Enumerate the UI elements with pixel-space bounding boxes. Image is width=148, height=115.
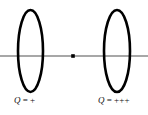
left-charge-symbol: Q — [14, 95, 21, 105]
right-ring-charge-label: Q = +++ — [98, 96, 130, 105]
left-charge-value: + — [30, 95, 35, 105]
left-ring-charge-label: Q = + — [14, 96, 35, 105]
right-charge-value: +++ — [114, 95, 130, 105]
right-charge-symbol: Q — [98, 95, 105, 105]
axis-point-marker — [71, 54, 75, 58]
figure-canvas: Q = + Q = +++ — [0, 0, 148, 115]
